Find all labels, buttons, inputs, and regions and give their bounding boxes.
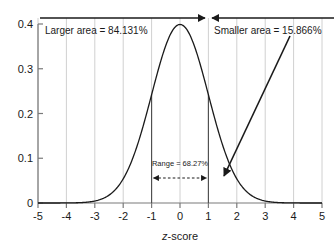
y-tick-label-0.2: 0.2: [18, 108, 33, 120]
y-tick-label-0.1: 0.1: [18, 152, 33, 164]
x-tick-label-2: 2: [234, 210, 240, 222]
range-label: Range = 68.27%: [152, 159, 208, 168]
y-tick-label-0.3: 0.3: [18, 63, 33, 75]
x-tick-label-3: 3: [262, 210, 268, 222]
chart-canvas: 0.4 0.3 0.2 0.1 0 -5 -4 -3 -2 -1 0 1 2 3…: [0, 0, 336, 249]
larger-area-label: Larger area = 84.131%: [45, 25, 148, 36]
x-axis-title: z-score: [161, 230, 198, 242]
x-axis-title-suffix: -score: [167, 230, 198, 242]
x-tick-label-0: 0: [177, 210, 183, 222]
smaller-area-label: Smaller area = 15.866%: [214, 25, 322, 36]
y-tick-label-0: 0: [27, 197, 33, 209]
figure-background: [0, 0, 336, 249]
x-tick-label-neg5: -5: [33, 210, 43, 222]
x-tick-label-neg1: -1: [147, 210, 157, 222]
x-tick-label-neg3: -3: [90, 210, 100, 222]
x-tick-label-1: 1: [205, 210, 211, 222]
x-tick-label-neg2: -2: [118, 210, 128, 222]
y-tick-label-0.4: 0.4: [18, 18, 33, 30]
x-tick-label-4: 4: [291, 210, 297, 222]
x-tick-label-neg4: -4: [62, 210, 72, 222]
normal-distribution-figure: 0.4 0.3 0.2 0.1 0 -5 -4 -3 -2 -1 0 1 2 3…: [0, 0, 336, 249]
x-tick-label-5: 5: [319, 210, 325, 222]
